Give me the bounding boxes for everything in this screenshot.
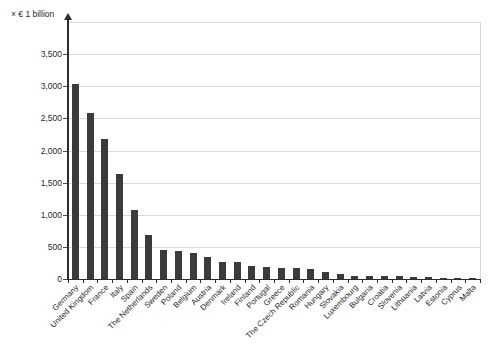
bar-belgium <box>190 253 197 279</box>
bar-united-kingdom <box>87 113 94 279</box>
x-axis-tick <box>289 280 290 283</box>
x-axis-tick <box>348 280 349 283</box>
gridline <box>68 86 480 87</box>
y-axis-tick-label: 1,500 <box>0 178 62 188</box>
y-axis-tick-label: 1,000 <box>0 210 62 220</box>
x-axis-tick <box>171 280 172 283</box>
x-axis-tick <box>83 280 84 283</box>
bar-sweden <box>160 250 167 279</box>
x-axis-tick <box>377 280 378 283</box>
bar-spain <box>131 210 138 279</box>
gridline <box>68 151 480 152</box>
bar-the-czech-republic <box>293 268 300 279</box>
x-axis-tick <box>200 280 201 283</box>
x-axis-tick <box>318 280 319 283</box>
x-axis-tick <box>333 280 334 283</box>
y-axis-tick <box>63 215 67 216</box>
y-axis-tick <box>63 183 67 184</box>
x-axis-tick <box>68 280 69 283</box>
x-axis-tick <box>480 280 481 283</box>
y-axis-tick-label: 3,000 <box>0 81 62 91</box>
x-axis-tick <box>465 280 466 283</box>
y-axis-tick-label: 0 <box>0 274 62 284</box>
y-axis-unit-label: × € 1 billion <box>11 9 54 19</box>
x-axis-tick <box>156 280 157 283</box>
x-axis-tick <box>186 280 187 283</box>
bar-ireland <box>234 262 241 279</box>
y-axis-tick <box>63 118 67 119</box>
x-axis-tick <box>303 280 304 283</box>
y-axis-line <box>67 20 69 280</box>
bar-romania <box>307 269 314 279</box>
y-axis-tick <box>63 151 67 152</box>
plot-area <box>68 22 480 279</box>
bar-greece <box>278 268 285 279</box>
y-axis-arrow-icon <box>64 13 72 20</box>
bar-poland <box>175 251 182 279</box>
y-axis-tick <box>63 279 67 280</box>
x-axis-tick <box>142 280 143 283</box>
y-axis-tick-label: 500 <box>0 242 62 252</box>
x-axis-tick <box>274 280 275 283</box>
y-axis-tick-label: 2,000 <box>0 146 62 156</box>
bar-germany <box>72 84 79 279</box>
bar-denmark <box>219 262 226 279</box>
x-axis-tick <box>436 280 437 283</box>
y-axis-tick <box>63 86 67 87</box>
x-axis-tick <box>259 280 260 283</box>
y-axis-tick <box>63 247 67 248</box>
bar-austria <box>204 257 211 279</box>
bar-italy <box>116 174 123 279</box>
bar-finland <box>248 266 255 279</box>
plot-frame-right <box>480 22 481 279</box>
bar-portugal <box>263 267 270 279</box>
gridline <box>68 183 480 184</box>
x-axis-tick <box>406 280 407 283</box>
x-axis-tick <box>230 280 231 283</box>
y-axis-tick-label: 3,500 <box>0 49 62 59</box>
y-axis-tick <box>63 54 67 55</box>
x-axis-tick <box>245 280 246 283</box>
gridline <box>68 54 480 55</box>
x-axis-tick <box>362 280 363 283</box>
x-axis-tick <box>112 280 113 283</box>
y-axis-tick-label: 2,500 <box>0 113 62 123</box>
x-axis-tick <box>451 280 452 283</box>
x-axis-tick <box>392 280 393 283</box>
gridline <box>68 118 480 119</box>
bar-france <box>101 139 108 279</box>
x-axis-tick <box>127 280 128 283</box>
x-axis-tick <box>97 280 98 283</box>
bar-chart: × € 1 billion 05001,0001,5002,0002,5003,… <box>0 0 491 348</box>
x-axis-tick <box>421 280 422 283</box>
bar-the-netherlands <box>145 235 152 279</box>
x-axis-tick <box>215 280 216 283</box>
